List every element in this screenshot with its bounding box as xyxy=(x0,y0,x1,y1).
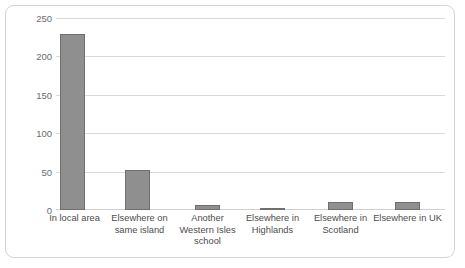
y-tick-200: 200 xyxy=(22,51,52,62)
bar-elsewhere-highlands[interactable] xyxy=(260,208,285,210)
x-label-elsewhere-uk: Elsewhere in UK xyxy=(363,213,452,225)
x-axis-category-labels: In local area Elsewhere on same island A… xyxy=(56,213,445,263)
bar-another-western-isles[interactable] xyxy=(195,205,220,210)
y-axis-tick-labels: 250 200 150 100 50 0 xyxy=(22,0,52,268)
y-tick-250: 250 xyxy=(22,13,52,24)
bar-in-local-area[interactable] xyxy=(60,34,85,210)
bar-elsewhere-same-island[interactable] xyxy=(125,170,150,210)
plot-area xyxy=(56,18,445,210)
bar-chart: Number of pupils 250 200 150 100 50 0 In… xyxy=(0,0,465,268)
bar-elsewhere-scotland[interactable] xyxy=(328,202,353,210)
y-tick-50: 50 xyxy=(22,167,52,178)
bar-elsewhere-uk[interactable] xyxy=(395,202,420,210)
bars-layer xyxy=(56,18,445,210)
y-tick-150: 150 xyxy=(22,90,52,101)
y-tick-100: 100 xyxy=(22,128,52,139)
